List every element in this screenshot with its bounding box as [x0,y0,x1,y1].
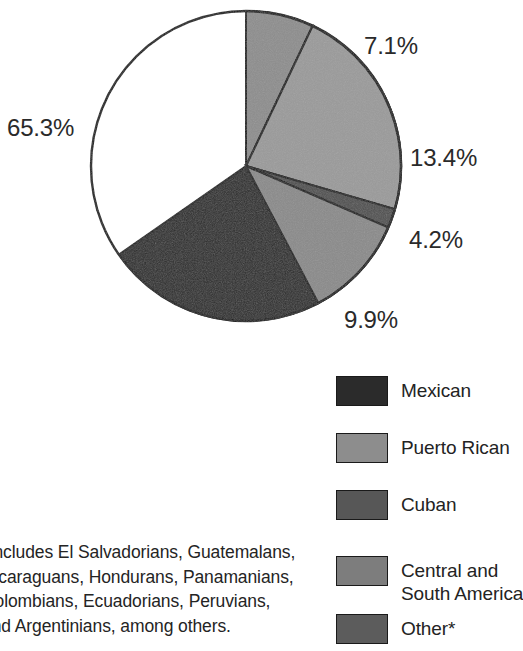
legend-label-mexican: Mexican [401,376,471,402]
footnote-line-3: Colombians, Ecuadorians, Peruvians, [0,589,332,614]
legend-item-puerto-rican: Puerto Rican [336,433,510,463]
legend-label-other: Other* [401,614,455,640]
legend-swatch-other [336,614,388,644]
legend-swatch-cuban [336,490,388,520]
pie-value-label-central-south-american: 4.2% [409,228,463,252]
legend-swatch-central-south-american [336,556,388,586]
legend-swatch-puerto-rican [336,433,388,463]
legend-label-central-south-american-line2: South America [401,582,523,605]
legend-swatch-mexican [336,376,388,406]
footnote-line-1: *Includes El Salvadorians, Guatemalans, [0,540,332,565]
footnote-line-2: Nicaraguans, Hondurans, Panamanians, [0,565,332,590]
pie-value-label-mexican: 65.3% [7,116,74,140]
legend-label-cuban: Cuban [401,490,457,516]
legend-label-puerto-rican: Puerto Rican [401,433,510,459]
legend-item-other: Other* [336,614,455,644]
legend-label-central-south-american: Central andSouth America [401,556,523,605]
pie-value-label-puerto-rican: 7.1% [364,34,418,58]
pie-value-label-other: 9.9% [344,308,398,332]
legend-item-cuban: Cuban [336,490,457,520]
footnote-line-4: and Argentinians, among others. [0,614,332,639]
pie-value-label-cuban: 13.4% [410,146,477,170]
chart-footnote: *Includes El Salvadorians, Guatemalans, … [0,540,332,638]
legend-item-central-south-american: Central andSouth America [336,556,523,605]
pie-chart-figure: 65.3% 7.1% 13.4% 4.2% 9.9% [0,0,502,345]
legend-item-mexican: Mexican [336,376,471,406]
legend-label-central-south-american-line1: Central and [401,560,498,581]
